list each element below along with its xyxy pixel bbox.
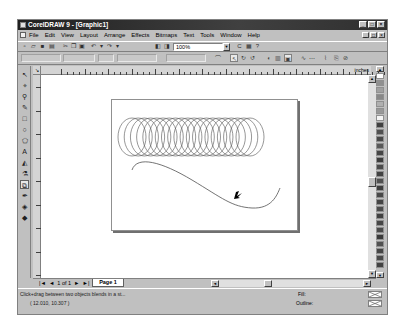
color-swatch[interactable] — [376, 220, 384, 226]
clear-blend-icon[interactable]: ⊘ — [341, 54, 349, 62]
color-swatch[interactable] — [376, 150, 384, 156]
blend-circle[interactable] — [124, 118, 152, 156]
interactive-fill-tool-icon[interactable]: ◆ — [20, 213, 29, 222]
ruler-origin[interactable]: ↘ — [33, 66, 41, 75]
blend-preset-icon[interactable]: ⌒ — [214, 54, 222, 62]
pick-tool-icon[interactable]: ↖ — [20, 70, 29, 79]
close-button[interactable]: × — [377, 21, 385, 28]
blend-circle[interactable] — [180, 118, 208, 156]
zoom-tool-icon[interactable]: ⚲ — [20, 92, 29, 101]
app-icon[interactable] — [20, 22, 26, 28]
print-icon[interactable]: ▤ — [48, 43, 55, 50]
blend-direction-field[interactable] — [117, 54, 157, 62]
color-swatch[interactable] — [376, 143, 384, 149]
blend-circle[interactable] — [161, 118, 189, 156]
preset-list[interactable] — [21, 54, 61, 62]
blend-options-icon[interactable]: ▥ — [274, 54, 282, 62]
fill-swatch[interactable] — [368, 291, 382, 298]
outline-tool-icon[interactable]: ✒ — [20, 191, 29, 200]
start-end-props-icon[interactable]: ▣ — [284, 54, 292, 62]
document-icon[interactable] — [20, 32, 26, 38]
blend-circle[interactable] — [168, 118, 196, 156]
shape-tool-icon[interactable]: ⌖ — [20, 81, 29, 90]
color-swatch[interactable] — [376, 248, 384, 254]
blend-circle[interactable] — [211, 118, 239, 156]
menu-help[interactable]: Help — [248, 30, 260, 40]
blend-direct-icon[interactable]: ↖ — [230, 54, 238, 62]
menu-edit[interactable]: Edit — [45, 30, 55, 40]
blend-circle[interactable] — [230, 118, 258, 156]
scroll-right-button[interactable]: ► — [363, 280, 371, 287]
color-swatch[interactable] — [376, 101, 384, 107]
blend-circle[interactable] — [236, 118, 264, 156]
doc-restore-button[interactable]: □ — [370, 32, 377, 38]
menu-effects[interactable]: Effects — [131, 30, 149, 40]
color-swatch[interactable] — [376, 199, 384, 205]
blend-circle[interactable] — [224, 118, 252, 156]
first-page-button[interactable]: |◄ — [39, 279, 46, 287]
blend-circle[interactable] — [137, 118, 165, 156]
menu-tools[interactable]: Tools — [200, 30, 214, 40]
blend-circle[interactable] — [174, 118, 202, 156]
fill-tool-icon[interactable]: ◈ — [20, 202, 29, 211]
color-swatch[interactable] — [376, 94, 384, 100]
cut-icon[interactable]: ✂ — [62, 43, 69, 50]
eyedropper-icon[interactable]: ⚗ — [20, 169, 29, 178]
scroll-left-button[interactable]: ◄ — [211, 280, 219, 287]
color-swatch[interactable] — [376, 136, 384, 142]
interactive-blend-icon[interactable]: ⧉ — [20, 180, 29, 189]
text-tool-icon[interactable]: A — [20, 147, 29, 156]
save-icon[interactable]: ■ — [39, 43, 46, 50]
color-swatch[interactable] — [376, 122, 384, 128]
blend-steps-field[interactable] — [98, 54, 114, 62]
redo-dropdown-icon[interactable]: ▾ — [114, 43, 121, 50]
color-swatch[interactable] — [376, 87, 384, 93]
color-swatch[interactable] — [376, 171, 384, 177]
application-launcher-icon[interactable]: ▦ — [245, 43, 252, 50]
color-swatch[interactable] — [376, 129, 384, 135]
color-swatch[interactable] — [376, 213, 384, 219]
whats-this-icon[interactable]: ? — [254, 43, 261, 50]
zoom-level-input[interactable]: 100% — [173, 43, 223, 51]
export-icon[interactable]: ◨ — [163, 43, 170, 50]
drawing-canvas[interactable] — [41, 75, 368, 278]
last-page-button[interactable]: ►| — [83, 279, 90, 287]
interactive-fill-icon[interactable]: ◭ — [20, 158, 29, 167]
menu-window[interactable]: Window — [220, 30, 241, 40]
menu-file[interactable]: File — [29, 30, 39, 40]
blend-circle[interactable] — [155, 118, 183, 156]
maximize-button[interactable]: □ — [368, 21, 376, 28]
path-properties-icon[interactable]: ∿ — [299, 54, 307, 62]
object-position-field[interactable] — [63, 54, 95, 62]
page-tab[interactable]: Page 1 — [92, 279, 124, 287]
blend-circle[interactable] — [217, 118, 245, 156]
object-color-accel-icon[interactable]: ◐ — [265, 54, 273, 62]
acceleration-field[interactable] — [166, 54, 206, 62]
color-swatch[interactable] — [376, 115, 384, 121]
blend-counterclockwise-icon[interactable]: ↺ — [248, 54, 256, 62]
paste-icon[interactable]: ▣ — [78, 43, 85, 50]
color-swatch[interactable] — [376, 262, 384, 268]
blend-circle[interactable] — [205, 118, 233, 156]
menu-text[interactable]: Text — [183, 30, 194, 40]
copy-blend-icon[interactable]: ⎘ — [332, 54, 340, 62]
doc-close-button[interactable]: × — [378, 32, 385, 38]
blend-circle[interactable] — [193, 118, 221, 156]
doc-minimize-button[interactable]: _ — [362, 32, 369, 38]
blend-clockwise-icon[interactable]: ↻ — [239, 54, 247, 62]
color-swatch[interactable] — [376, 178, 384, 184]
outline-swatch[interactable] — [368, 300, 382, 307]
color-swatch[interactable] — [376, 255, 384, 261]
blend-circle[interactable] — [143, 118, 171, 156]
menu-layout[interactable]: Layout — [80, 30, 98, 40]
minimize-button[interactable]: _ — [359, 21, 367, 28]
rectangle-tool-icon[interactable]: □ — [20, 114, 29, 123]
zoom-dropdown-button[interactable]: ▼ — [223, 43, 230, 51]
open-icon[interactable]: ▱ — [30, 43, 37, 50]
color-swatch[interactable] — [376, 80, 384, 86]
blend-circle[interactable] — [149, 118, 177, 156]
blend-circle[interactable] — [118, 118, 146, 156]
new-icon[interactable]: ▫ — [21, 43, 28, 50]
menu-bitmaps[interactable]: Bitmaps — [156, 30, 178, 40]
blend-circle[interactable] — [186, 118, 214, 156]
